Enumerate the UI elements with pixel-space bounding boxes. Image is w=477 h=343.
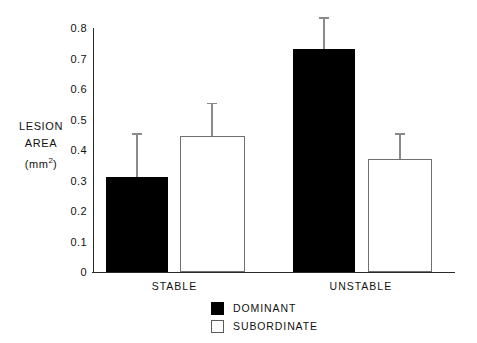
y-axis-title-units: (mm2) xyxy=(8,152,74,173)
legend-swatch-dominant xyxy=(211,302,224,315)
bar-unstable-subordinate xyxy=(368,159,432,272)
error-bar-cap xyxy=(132,133,142,135)
legend-label: DOMINANT xyxy=(233,302,296,314)
bar-stable-subordinate xyxy=(180,136,245,272)
bar-unstable-dominant xyxy=(293,49,355,272)
error-bar-unstable-subordinate xyxy=(399,133,401,159)
error-bar-cap xyxy=(207,103,217,105)
x-axis-line xyxy=(92,272,455,273)
y-axis-line xyxy=(93,28,94,272)
y-tick-label: 0.3 xyxy=(71,175,88,187)
y-tick-label: 0 xyxy=(80,266,87,278)
x-category-label-unstable: UNSTABLE xyxy=(330,280,393,292)
y-tick-label: 0.8 xyxy=(71,22,88,34)
error-bar-stable-subordinate xyxy=(211,103,213,137)
error-bar-cap xyxy=(319,17,329,19)
y-tick-label: 0.6 xyxy=(71,83,88,95)
y-tick-label: 0.7 xyxy=(71,53,88,65)
plot-area: 00.10.20.30.40.50.60.70.8 STABLEUNSTABLE xyxy=(93,28,455,272)
y-axis-title-line-1: LESION xyxy=(8,118,74,135)
y-tick-label: 0.4 xyxy=(71,144,88,156)
y-axis-title: LESION AREA (mm2) xyxy=(8,118,74,173)
error-bar-stable-dominant xyxy=(136,133,138,177)
legend-label: SUBORDINATE xyxy=(233,320,318,332)
error-bar-cap xyxy=(395,133,405,135)
legend-item-subordinate: SUBORDINATE xyxy=(211,317,318,335)
y-axis-units-close: ) xyxy=(53,158,57,170)
y-tick-label: 0.5 xyxy=(71,114,88,126)
bar-chart-figure: LESION AREA (mm2) 00.10.20.30.40.50.60.7… xyxy=(0,0,477,343)
legend: DOMINANTSUBORDINATE xyxy=(211,299,318,335)
error-bar-unstable-dominant xyxy=(323,17,325,49)
y-axis-units-base: (mm xyxy=(25,158,49,170)
x-category-label-stable: STABLE xyxy=(152,280,198,292)
legend-swatch-subordinate xyxy=(211,320,224,333)
y-tick-label: 0.1 xyxy=(71,236,88,248)
y-axis-title-line-2: AREA xyxy=(8,135,74,152)
y-tick-label: 0.2 xyxy=(71,205,88,217)
bar-stable-dominant xyxy=(106,177,168,272)
legend-item-dominant: DOMINANT xyxy=(211,299,318,317)
